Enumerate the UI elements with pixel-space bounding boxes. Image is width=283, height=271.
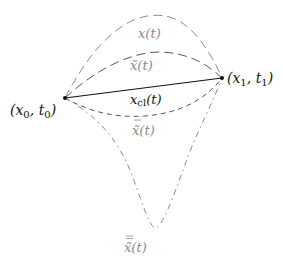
start-point-label: (x0, t0) bbox=[10, 102, 56, 120]
path-diagram: (x0, t0) (x1, t1) x(t) x̃(t) xcl(t) x̃(t… bbox=[0, 0, 283, 271]
curve-x-cl bbox=[65, 78, 222, 98]
label-x-bar-bar-tilde: x̃(t) bbox=[124, 240, 147, 255]
label-x-cl: xcl(t) bbox=[130, 92, 162, 108]
label-x: x(t) bbox=[138, 26, 161, 41]
label-x-tilde: x̃(t) bbox=[130, 58, 153, 73]
start-point-dot bbox=[63, 96, 67, 100]
end-point-dot bbox=[220, 76, 224, 80]
label-x-bar-tilde: x̃(t) bbox=[132, 123, 155, 138]
end-point-label: (x1, t1) bbox=[227, 70, 273, 88]
